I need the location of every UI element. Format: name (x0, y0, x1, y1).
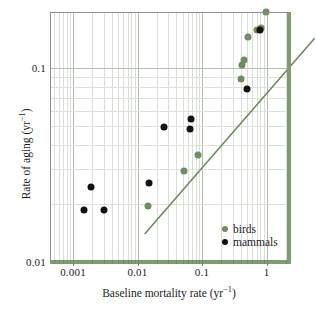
x-axis-tick (221, 260, 222, 264)
gridline-vertical (63, 12, 64, 262)
x-axis-tick (192, 260, 193, 264)
y-axis-label-exponent: −1 (18, 112, 27, 121)
data-point-mammals (187, 116, 194, 123)
x-axis-tick (128, 260, 129, 264)
data-point-mammals (81, 207, 88, 214)
x-axis-tick (247, 260, 248, 264)
regression-line (100, 24, 316, 274)
gridline-vertical (70, 12, 71, 262)
y-axis-label-paren: ) (20, 108, 32, 112)
x-axis-tick (260, 260, 261, 264)
x-axis-tick (241, 260, 242, 264)
x-axis-tick (257, 260, 258, 264)
x-axis-tick (188, 260, 189, 264)
legend: birdsmammals (222, 222, 278, 248)
data-point-birds (180, 167, 187, 174)
legend-item-birds: birds (222, 222, 278, 235)
data-point-mammals (100, 207, 107, 214)
x-axis-tick (264, 260, 265, 264)
data-point-mammals (244, 85, 251, 92)
figure-scatter-plot: 0.0010.010.11 0.10.01 Baseline mortality… (0, 0, 316, 310)
gridline-vertical (59, 12, 60, 262)
x-axis-tick (131, 260, 132, 264)
x-axis-tick-label: 0.1 (195, 266, 209, 278)
legend-marker-mammals (222, 239, 228, 245)
x-axis-tick-label: 0.01 (127, 266, 147, 278)
plot-frame-right (287, 12, 291, 264)
x-axis-tick (196, 260, 197, 264)
plot-frame-top (50, 12, 288, 13)
x-axis-tick-label: 1 (264, 266, 270, 278)
x-axis-tick (168, 260, 169, 264)
x-axis-tick (59, 260, 60, 264)
y-axis-tick-label: 0.01 (26, 256, 46, 268)
x-axis-tick (183, 260, 184, 264)
x-axis-tick (286, 260, 287, 264)
x-axis-label: Baseline mortality rate (yr−1) (50, 285, 288, 299)
y-axis-label-text: Rate of aging (yr (20, 121, 32, 199)
x-axis-tick (92, 260, 93, 264)
legend-label-birds: birds (233, 223, 256, 235)
data-point-birds (195, 152, 202, 159)
x-axis-tick (63, 260, 64, 264)
x-axis-tick (233, 260, 234, 264)
legend-item-mammals: mammals (222, 235, 278, 248)
x-axis-tick (123, 260, 124, 264)
legend-label-mammals: mammals (233, 236, 278, 248)
x-axis-tick (67, 260, 68, 264)
y-axis-label: Rate of aging (yr−1) (18, 74, 32, 234)
data-point-birds (240, 57, 247, 64)
data-point-mammals (88, 183, 95, 190)
x-axis-label-paren: ) (232, 287, 236, 299)
x-axis-tick (176, 260, 177, 264)
gridline-vertical (54, 12, 55, 262)
x-axis-tick (157, 260, 158, 264)
data-point-mammals (186, 126, 193, 133)
plot-frame-left (50, 12, 51, 262)
gridline-vertical (73, 12, 74, 262)
legend-marker-birds (222, 226, 228, 232)
x-axis-tick (252, 260, 253, 264)
y-axis-tick-label: 0.1 (32, 62, 46, 74)
gridline-vertical (67, 12, 68, 262)
x-axis-tick (112, 260, 113, 264)
data-point-mammals (160, 124, 167, 131)
gridline-vertical (92, 12, 93, 262)
x-axis-tick (135, 260, 136, 264)
data-point-mammals (257, 26, 264, 33)
x-axis-label-exponent: −1 (223, 285, 232, 294)
x-axis-tick (199, 260, 200, 264)
data-point-birds (245, 33, 252, 40)
x-axis-label-text: Baseline mortality rate (yr (102, 287, 223, 299)
x-axis-tick (54, 260, 55, 264)
x-axis-tick (70, 260, 71, 264)
x-axis-line (50, 260, 291, 264)
x-axis-tick-label: 0.001 (60, 266, 86, 278)
data-point-mammals (145, 180, 152, 187)
x-axis-tick (104, 260, 105, 264)
x-axis-tick (118, 260, 119, 264)
data-point-birds (237, 75, 244, 82)
data-point-birds (144, 202, 151, 209)
